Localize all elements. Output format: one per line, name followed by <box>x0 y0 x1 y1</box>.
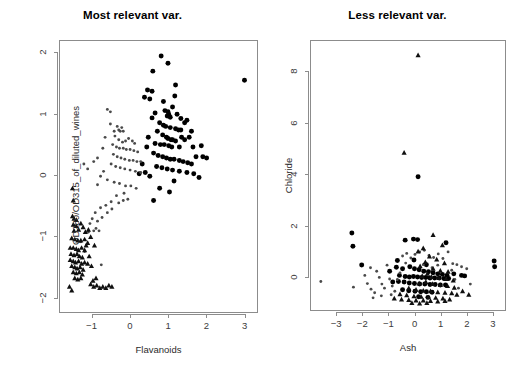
data-point-circle-large <box>172 179 177 184</box>
data-point-circle-small <box>109 123 112 126</box>
panel-most-relevant: Most relevant var. −10123−2−1012 Flavano… <box>0 0 265 369</box>
data-point-circle-small <box>82 163 85 166</box>
data-point-circle-small <box>129 169 132 172</box>
data-point-triangle <box>392 296 397 301</box>
data-point-triangle <box>435 290 440 295</box>
data-point-circle-small <box>113 181 116 184</box>
data-point-circle-large <box>150 115 155 120</box>
data-point-circle-small <box>124 184 127 187</box>
data-point-circle-large <box>151 198 156 203</box>
data-point-circle-large <box>172 157 177 162</box>
x-tick-label: 2 <box>453 319 481 329</box>
x-axis-title-right: Ash <box>310 342 506 353</box>
data-point-circle-small <box>121 141 124 144</box>
data-point-circle-large <box>169 145 174 150</box>
data-point-circle-large <box>242 78 247 83</box>
y-axis-title-right: Chloride <box>283 136 294 216</box>
data-point-circle-small <box>124 140 127 143</box>
data-point-triangle <box>94 283 99 288</box>
data-point-circle-small <box>388 278 391 281</box>
data-point-triangle <box>406 285 411 290</box>
data-point-circle-small <box>396 278 399 281</box>
data-point-circle-small <box>370 288 373 291</box>
data-point-triangle <box>423 279 428 284</box>
data-point-triangle <box>402 150 407 155</box>
y-tick-label: 2 <box>38 42 48 62</box>
data-point-circle-small <box>92 160 95 163</box>
data-point-circle-large <box>492 264 497 269</box>
y-tick-label: 6 <box>289 113 299 133</box>
data-point-circle-small <box>110 163 113 166</box>
data-point-circle-small <box>129 148 132 151</box>
data-point-circle-large <box>165 166 170 171</box>
series-class-a-bold-circle <box>137 53 247 202</box>
data-point-circle-large <box>400 287 405 292</box>
data-point-circle-large <box>407 281 412 286</box>
data-point-circle-small <box>101 216 104 219</box>
data-point-circle-small <box>399 271 402 274</box>
data-point-circle-large <box>173 138 178 143</box>
data-point-circle-small <box>383 287 386 290</box>
data-point-circle-large <box>156 153 161 158</box>
data-point-circle-small <box>136 150 139 153</box>
data-point-circle-small <box>109 110 112 113</box>
data-point-circle-large <box>416 174 421 179</box>
data-point-circle-small <box>369 266 372 269</box>
data-point-circle-small <box>122 147 125 150</box>
data-point-circle-large <box>349 231 354 236</box>
data-point-triangle <box>442 290 447 295</box>
data-point-circle-large <box>394 265 399 270</box>
data-point-circle-small <box>432 256 435 259</box>
data-point-circle-small <box>132 149 135 152</box>
data-point-circle-large <box>150 89 155 94</box>
x-tick-mark <box>493 312 494 316</box>
data-point-circle-small <box>129 184 132 187</box>
data-point-circle-small <box>401 255 404 258</box>
x-tick-mark <box>245 314 246 318</box>
x-tick-label: 2 <box>192 321 220 331</box>
data-point-circle-large <box>177 169 182 174</box>
data-point-circle-small <box>115 146 118 149</box>
data-point-circle-large <box>187 135 192 140</box>
data-point-circle-small <box>363 274 366 277</box>
data-point-circle-small <box>132 159 135 162</box>
data-point-circle-large <box>451 271 456 276</box>
y-axis-line <box>308 71 309 277</box>
data-point-circle-small <box>100 263 103 266</box>
panel-less-relevant: Less relevant var. −3−2−1012302468 Ash C… <box>265 0 530 369</box>
data-point-triangle <box>433 295 438 300</box>
x-tick-label: 3 <box>231 321 259 331</box>
x-axis-line <box>336 312 493 313</box>
data-point-circle-small <box>390 293 393 296</box>
data-point-circle-large <box>167 190 172 195</box>
data-point-circle-large <box>191 145 196 150</box>
data-point-circle-small <box>99 175 102 178</box>
y-tick-label: 8 <box>289 61 299 81</box>
data-point-circle-large <box>350 244 355 249</box>
data-point-circle-small <box>104 136 107 139</box>
x-tick-label: 1 <box>427 319 455 329</box>
data-point-circle-large <box>170 104 175 109</box>
data-point-circle-small <box>113 130 116 133</box>
data-point-circle-large <box>172 94 177 99</box>
data-point-triangle <box>404 293 409 298</box>
data-point-circle-small <box>101 147 104 150</box>
data-point-circle-small <box>366 282 369 285</box>
data-point-circle-large <box>197 175 202 180</box>
data-point-circle-small <box>380 283 383 286</box>
data-point-circle-small <box>139 171 142 174</box>
data-point-triangle <box>447 297 452 302</box>
plot-area-right <box>310 40 506 311</box>
data-point-circle-large <box>144 145 149 150</box>
data-point-circle-small <box>98 229 101 232</box>
x-tick-label: 1 <box>154 321 182 331</box>
data-point-circle-small <box>123 192 126 195</box>
data-point-circle-large <box>147 174 152 179</box>
data-point-circle-small <box>404 262 407 265</box>
data-point-circle-small <box>460 265 463 268</box>
data-point-circle-small <box>123 158 126 161</box>
data-point-circle-large <box>168 115 173 120</box>
data-point-circle-small <box>373 291 376 294</box>
data-point-circle-large <box>199 143 204 148</box>
data-point-circle-large <box>150 69 155 74</box>
